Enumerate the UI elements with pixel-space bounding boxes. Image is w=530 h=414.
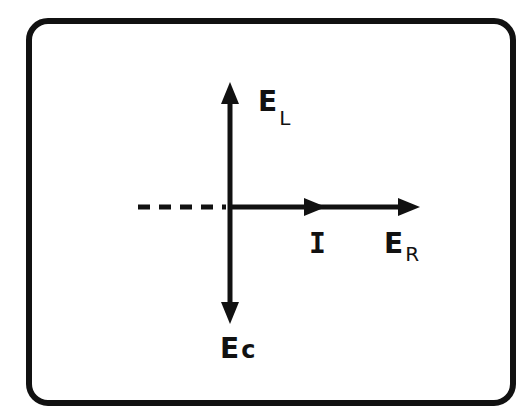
er-arrowhead-icon bbox=[398, 198, 420, 216]
label-ec: Ec bbox=[220, 335, 255, 363]
label-el-sub: L bbox=[279, 106, 290, 130]
label-er-main: E bbox=[384, 227, 403, 260]
label-el: EL bbox=[258, 88, 288, 116]
label-ec-main: E bbox=[220, 332, 239, 365]
current-arrowhead-icon bbox=[304, 198, 326, 216]
el-arrowhead-icon bbox=[221, 82, 239, 104]
label-er-sub: R bbox=[405, 242, 419, 266]
label-ec-sub: c bbox=[241, 336, 255, 364]
ec-arrowhead-icon bbox=[221, 302, 239, 324]
label-er: ER bbox=[384, 230, 417, 258]
label-el-main: E bbox=[258, 85, 277, 118]
label-current: I bbox=[309, 230, 326, 258]
phasor-diagram bbox=[0, 0, 530, 414]
